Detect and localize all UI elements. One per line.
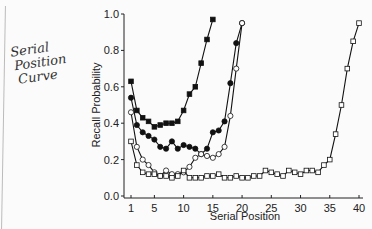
data-point (158, 144, 163, 149)
data-point (181, 168, 186, 173)
data-point (163, 168, 168, 173)
series-list-20-b (128, 21, 244, 179)
data-point (135, 108, 140, 113)
data-point (345, 66, 350, 71)
y-tick-label: 0.0 (104, 190, 119, 202)
data-point (181, 142, 186, 147)
series-line (131, 23, 359, 178)
data-point (211, 17, 216, 22)
data-point (275, 172, 280, 177)
data-point (292, 170, 297, 175)
data-point (234, 41, 239, 46)
x-axis-title: Serial Position (210, 210, 280, 222)
data-point (222, 176, 227, 181)
data-point (310, 168, 315, 173)
data-point (193, 146, 198, 151)
data-point (187, 176, 192, 181)
serial-position-chart: 0.00.20.40.60.81.01510152025303540 Seria… (0, 0, 372, 229)
data-point (234, 174, 239, 179)
data-point (199, 152, 204, 157)
data-point (205, 174, 210, 179)
x-tick-label: 30 (294, 202, 306, 214)
data-point (240, 176, 245, 181)
data-point (152, 172, 157, 177)
data-point (193, 155, 198, 160)
data-point (222, 119, 227, 124)
data-point (228, 81, 233, 86)
data-point (222, 144, 227, 149)
series-list-40 (129, 21, 362, 180)
data-point (140, 157, 145, 162)
data-point (129, 79, 134, 84)
data-point (204, 146, 209, 151)
data-point (333, 132, 338, 137)
data-point (339, 103, 344, 108)
y-tick-label: 0.4 (104, 117, 119, 129)
data-point (327, 157, 332, 162)
data-point (216, 172, 221, 177)
axes: 0.00.20.40.60.81.01510152025303540 (104, 8, 365, 214)
data-point (140, 130, 145, 135)
data-point (351, 39, 356, 44)
data-point (228, 176, 233, 181)
series-line (131, 19, 213, 126)
series-line (131, 23, 242, 176)
data-point (322, 163, 327, 168)
data-point (187, 92, 192, 97)
data-point (193, 85, 198, 90)
data-point (187, 144, 192, 149)
data-point (239, 21, 244, 26)
x-tick-label: 5 (151, 202, 157, 214)
data-point (316, 170, 321, 175)
data-point (304, 168, 309, 173)
y-tick-label: 1.0 (104, 8, 119, 20)
data-point (170, 121, 175, 126)
data-point (152, 137, 157, 142)
data-point (135, 163, 140, 168)
data-point (228, 113, 233, 118)
x-tick-label: 10 (177, 202, 189, 214)
data-point (246, 176, 251, 181)
data-point (175, 174, 180, 179)
data-point (140, 170, 145, 175)
series-group (128, 17, 361, 180)
data-point (257, 174, 262, 179)
data-point (216, 128, 221, 133)
data-point (357, 21, 362, 26)
x-tick-label: 35 (324, 202, 336, 214)
data-point (146, 133, 151, 138)
data-point (170, 176, 175, 181)
x-tick-label: 40 (353, 202, 365, 214)
data-point (205, 37, 210, 42)
data-point (140, 115, 145, 120)
data-point (146, 172, 151, 177)
data-point (269, 170, 274, 175)
y-tick-label: 0.8 (104, 44, 119, 56)
data-point (134, 122, 139, 127)
data-point (204, 153, 209, 158)
data-point (175, 146, 180, 151)
data-point (128, 110, 133, 115)
data-point (129, 139, 134, 144)
data-point (187, 164, 192, 169)
data-point (169, 139, 174, 144)
data-point (210, 130, 215, 135)
series-list-15 (129, 17, 215, 129)
data-point (281, 174, 286, 179)
y-tick-label: 0.2 (104, 154, 119, 166)
data-point (128, 95, 133, 100)
data-point (211, 174, 216, 179)
data-point (251, 174, 256, 179)
data-point (199, 61, 204, 66)
y-tick-label: 0.6 (104, 81, 119, 93)
data-point (164, 121, 169, 126)
data-point (193, 176, 198, 181)
data-point (287, 168, 292, 173)
data-point (234, 66, 239, 71)
data-point (216, 152, 221, 157)
data-point (175, 119, 180, 124)
data-point (298, 172, 303, 177)
data-point (163, 146, 168, 151)
data-point (263, 168, 268, 173)
data-point (146, 119, 151, 124)
